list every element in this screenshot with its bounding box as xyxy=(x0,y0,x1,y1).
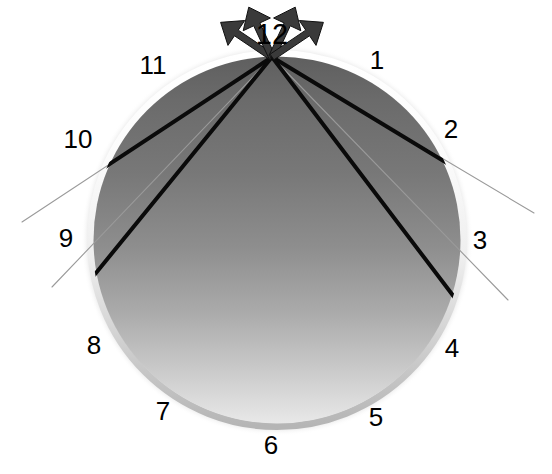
hour-label-1: 1 xyxy=(370,47,384,73)
hour-label-6: 6 xyxy=(264,432,278,458)
figure-root: 121234567891011 xyxy=(0,0,552,474)
hour-label-12: 12 xyxy=(256,20,288,49)
hour-label-9: 9 xyxy=(59,225,73,251)
hour-label-11: 11 xyxy=(140,52,167,78)
hour-label-3: 3 xyxy=(473,227,487,253)
hour-label-4: 4 xyxy=(445,335,459,361)
sphere-body xyxy=(94,57,461,424)
hour-label-7: 7 xyxy=(156,398,170,424)
hour-label-5: 5 xyxy=(369,404,383,430)
hour-label-8: 8 xyxy=(87,332,101,358)
hour-label-2: 2 xyxy=(444,116,458,142)
sphere-diagram-svg xyxy=(0,0,552,474)
hour-label-10: 10 xyxy=(64,126,93,152)
